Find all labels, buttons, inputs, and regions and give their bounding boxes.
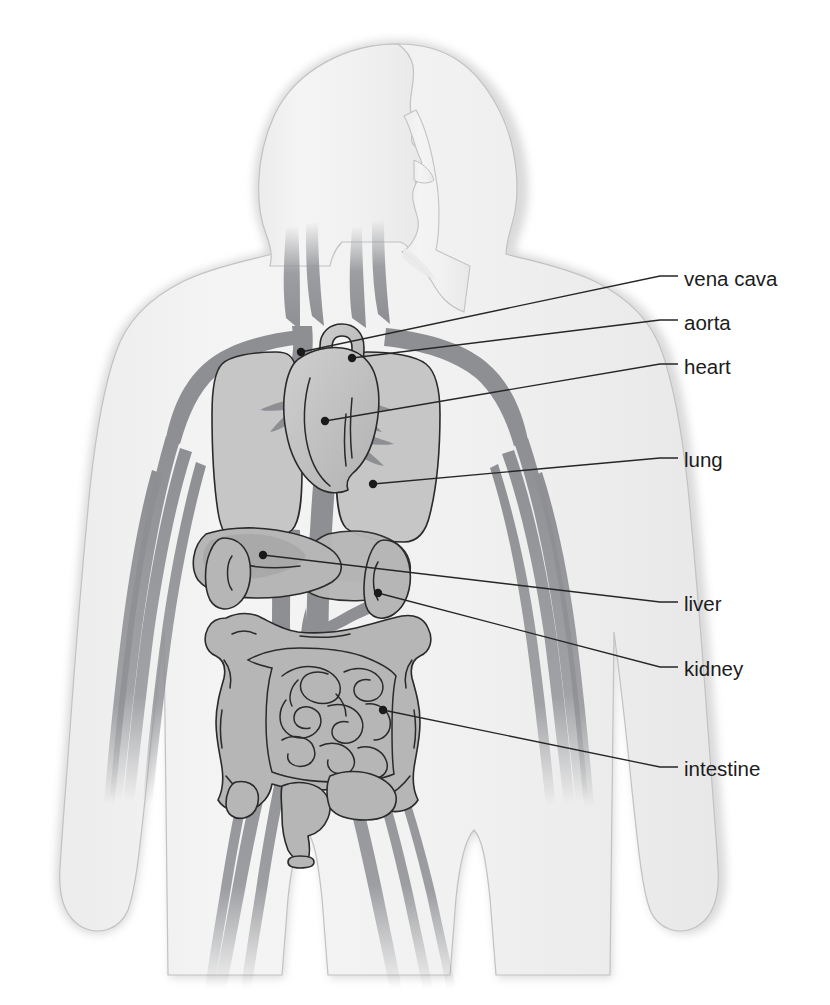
leader-dot-kidney [374, 589, 382, 597]
label-text-kidney: kidney [684, 657, 744, 680]
label-text-heart: heart [684, 355, 731, 378]
label-text-intestine: intestine [684, 757, 760, 780]
leader-dot-heart [321, 417, 329, 425]
leader-dot-vena-cava [297, 348, 305, 356]
sigmoid-colon [226, 782, 258, 819]
label-text-vena-cava: vena cava [684, 267, 778, 290]
leader-dot-aorta [348, 354, 356, 362]
label-text-aorta: aorta [684, 311, 731, 334]
anatomy-diagram: vena cava aorta heart lung [0, 0, 830, 1005]
label-text-liver: liver [684, 592, 722, 615]
leader-dot-lung [369, 480, 377, 488]
leader-dot-liver [259, 551, 267, 559]
urethra [288, 856, 314, 868]
anatomy-illustration: vena cava aorta heart lung [0, 0, 830, 1005]
label-text-lung: lung [684, 448, 723, 471]
leader-dot-intestine [379, 706, 387, 714]
